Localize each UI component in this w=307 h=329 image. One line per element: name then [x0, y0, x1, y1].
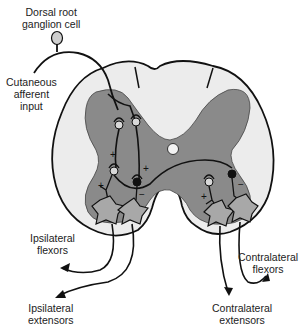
sign-minus: −	[139, 189, 145, 200]
arrow-ipsi-extensor	[55, 290, 66, 298]
interneuron-inhibitory	[133, 178, 141, 186]
interneuron-inhibitory	[228, 170, 236, 178]
sign-plus: +	[143, 163, 149, 174]
label-cutaneous-afferent: Cutaneous afferent input	[6, 76, 57, 112]
label-contralateral-extensors: Contralateral extensors	[212, 302, 272, 326]
sign-plus: +	[98, 180, 104, 191]
label-dorsal-root-ganglion: Dorsal root ganglion cell	[22, 6, 80, 30]
label-ipsilateral-flexors: Ipsilateral flexors	[30, 232, 75, 256]
interneuron-excitatory	[110, 167, 118, 175]
interneuron-excitatory	[205, 178, 213, 186]
sign-minus: −	[238, 179, 244, 190]
efferent-contra-extensor	[220, 226, 228, 292]
interneuron-excitatory	[132, 118, 140, 126]
interneuron-excitatory	[115, 121, 123, 129]
sign-plus: +	[201, 191, 207, 202]
sign-plus: +	[110, 149, 116, 160]
central-canal	[168, 144, 179, 155]
spinal-cord-diagram: + + + − + −	[0, 0, 307, 329]
drg-cell-body	[52, 32, 63, 45]
label-contralateral-flexors: Contralateral flexors	[238, 251, 298, 275]
arrow-contra-extensor	[224, 287, 233, 296]
label-ipsilateral-extensors: Ipsilateral extensors	[28, 302, 74, 326]
